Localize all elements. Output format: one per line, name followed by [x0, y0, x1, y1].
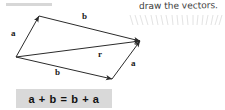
handwritten-annotation: draw the vectors. [139, 0, 218, 11]
vector-a-left [16, 16, 39, 57]
vector-r-resultant [16, 41, 140, 57]
equation-callout-box: a + b = b + a [16, 89, 112, 108]
vector-b-bottom [16, 57, 112, 79]
label-vector-b-bottom: b [55, 68, 60, 77]
label-vector-a-right: a [131, 59, 136, 68]
label-vector-a-left: a [11, 29, 16, 38]
vector-addition-figure: a b r a b draw the vectors. a + b = b + … [0, 0, 225, 110]
label-vector-b-top: b [82, 12, 87, 21]
commutative-equation-text: a + b = b + a [28, 93, 99, 105]
vector-b-top [39, 16, 140, 41]
tick-mark-row [128, 14, 223, 27]
label-vector-r: r [98, 50, 102, 59]
